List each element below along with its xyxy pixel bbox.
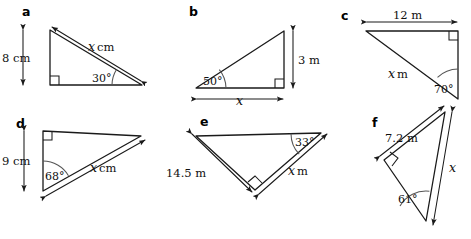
panel-c: c 12 m 70° x m xyxy=(341,8,458,99)
panel-a-letter: a xyxy=(22,4,30,19)
panel-c-letter: c xyxy=(341,8,348,23)
panel-f-side-label: 7.2 m xyxy=(385,131,418,145)
panel-e-hyp-var: x xyxy=(288,163,295,178)
panel-d-letter: d xyxy=(16,116,25,131)
panel-a: a 8 cm 30° x cm xyxy=(2,4,142,85)
panel-c-side-label: 12 m xyxy=(393,8,422,22)
panel-a-right-angle-marker xyxy=(50,76,59,85)
panel-b-angle-label: 50° xyxy=(203,75,223,88)
panel-d-hyp-var: x xyxy=(90,160,97,175)
panel-b-letter: b xyxy=(189,4,198,19)
panel-f-hyp-var: x xyxy=(449,160,456,175)
panel-e-letter: e xyxy=(200,114,208,129)
panel-d: d 9 cm 68° x cm xyxy=(2,116,145,196)
panel-a-hyp-var: x xyxy=(88,39,95,54)
panel-b-hyp-var: x xyxy=(236,93,243,108)
panel-d-right-angle-marker xyxy=(43,132,52,140)
panel-b-right-angle-marker xyxy=(275,79,284,88)
panel-f-angle-label: 61° xyxy=(398,193,418,206)
panel-c-hyp-unit: m xyxy=(397,67,408,81)
trigonometry-worksheet-figure: a 8 cm 30° x cm b 3 m x 50° xyxy=(0,0,471,239)
panel-e: e 14.5 m x m 33° xyxy=(166,114,327,194)
panel-e-side-label: 14.5 m xyxy=(166,166,206,180)
panel-a-angle-arc xyxy=(112,70,117,86)
panel-c-hyp-var: x xyxy=(388,66,395,81)
panel-c-right-angle-marker xyxy=(449,31,458,40)
panel-a-side-label: 8 cm xyxy=(2,51,30,65)
panel-e-hyp-unit: m xyxy=(297,164,308,178)
panel-c-angle-label: 70° xyxy=(434,83,454,96)
panel-d-angle-label: 68° xyxy=(45,170,65,183)
panel-a-angle-label: 30° xyxy=(92,72,112,85)
panel-f-letter: f xyxy=(372,115,378,130)
panel-d-hyp-unit: cm xyxy=(99,161,116,175)
panel-e-side-dimension-arrow xyxy=(192,134,252,192)
panel-e-angle-label: 33° xyxy=(295,136,315,149)
panel-b: b 3 m x 50° xyxy=(189,4,320,108)
panel-e-right-angle-marker xyxy=(248,176,262,183)
panel-c-angle-arc xyxy=(438,69,459,77)
panel-a-hyp-unit: cm xyxy=(97,40,114,54)
panel-d-side-label: 9 cm xyxy=(2,154,30,168)
panel-f: f 7.2 m x 61° xyxy=(372,106,456,225)
panel-b-side-label: 3 m xyxy=(298,53,320,67)
